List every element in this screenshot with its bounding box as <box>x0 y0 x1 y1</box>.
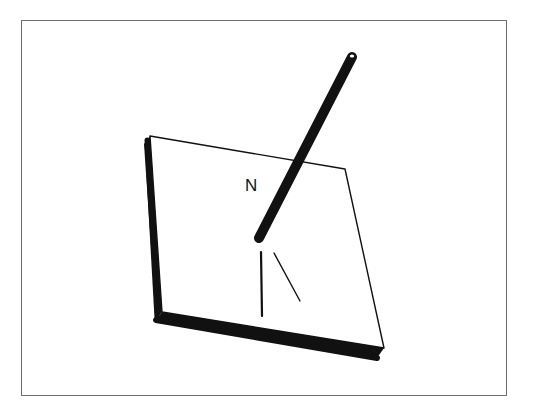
projection-line-vertical <box>261 252 262 316</box>
rod-tip-icon <box>350 54 354 57</box>
diagram-canvas <box>0 0 537 410</box>
normal-label: N <box>245 177 257 194</box>
